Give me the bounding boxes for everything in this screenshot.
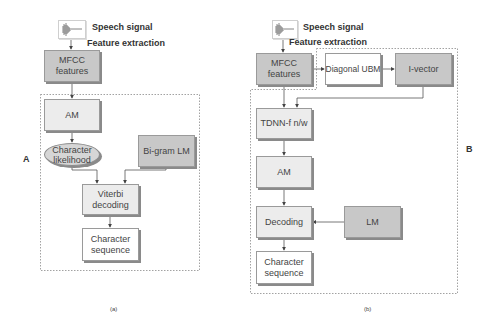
diagonal-ubm-text: Diagonal UBM (326, 64, 381, 75)
mfcc-features-text-a: MFCC features (54, 55, 90, 77)
am-text-a: AM (65, 110, 79, 121)
mfcc-features-box-a: MFCC features (44, 50, 100, 82)
panel-a-caption: (a) (110, 306, 117, 312)
decoding-text: Decoding (265, 217, 303, 228)
lm-box: LM (344, 206, 401, 238)
mfcc-features-box-b: MFCC features (256, 53, 312, 85)
character-sequence-text-a: Character sequence (88, 234, 134, 256)
speech-signal-label-a: Speech signal (92, 22, 153, 32)
feature-extraction-label-b: Feature extraction (289, 37, 367, 47)
waveform-icon (273, 21, 297, 38)
am-text-b: AM (277, 167, 291, 178)
character-likelihood-text: Character likelihood (49, 145, 95, 165)
bigram-lm-text: Bi-gram LM (143, 146, 190, 157)
panel-b-caption: (b) (364, 306, 371, 312)
bigram-lm-box: Bi-gram LM (138, 135, 195, 167)
feature-extraction-label-a: Feature extraction (87, 38, 165, 48)
viterbi-decoding-box: Viterbi decoding (82, 184, 139, 215)
character-sequence-text-b: Character sequence (261, 257, 307, 279)
diagonal-ubm-box: Diagonal UBM (325, 53, 381, 85)
tdnn-f-network-text: TDNN-f n/w (261, 118, 308, 129)
ivector-box: I-vector (395, 53, 452, 85)
am-box-b: AM (256, 156, 312, 188)
character-sequence-box-b: Character sequence (256, 251, 312, 284)
am-box-a: AM (44, 99, 100, 131)
panel-a-letter: A (23, 154, 30, 164)
speech-waveform-icon (58, 20, 86, 39)
character-sequence-box-a: Character sequence (82, 228, 139, 261)
waveform-icon (59, 21, 85, 38)
speech-signal-label-b: Speech signal (303, 22, 364, 32)
character-likelihood-ellipse: Character likelihood (44, 143, 100, 166)
decoding-box: Decoding (256, 206, 312, 238)
ivector-text: I-vector (408, 64, 438, 75)
lm-text: LM (366, 217, 379, 228)
panel-b-letter: B (466, 144, 473, 154)
viterbi-decoding-text: Viterbi decoding (91, 189, 131, 211)
mfcc-features-text-b: MFCC features (266, 58, 302, 80)
tdnn-f-network-box: TDNN-f n/w (256, 108, 312, 139)
